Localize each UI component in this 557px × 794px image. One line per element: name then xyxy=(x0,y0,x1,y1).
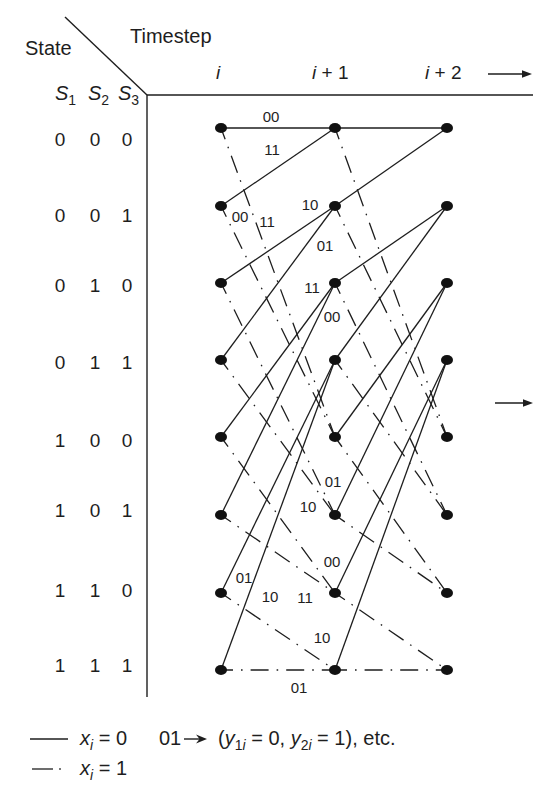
state-bit: 1 xyxy=(122,205,133,226)
legend-solid-label: xi = 0 xyxy=(79,727,127,753)
state-bit-heading-s1: S1 xyxy=(55,82,76,108)
state-bit: 0 xyxy=(122,580,133,601)
state-label-row: 100 xyxy=(55,430,133,451)
state-node xyxy=(441,355,453,365)
branch-input-0 xyxy=(335,283,447,437)
state-bit: 0 xyxy=(55,129,66,150)
branch-output-label: 00 xyxy=(232,208,249,225)
state-bit: 1 xyxy=(122,655,133,676)
state-bit: 1 xyxy=(90,580,101,601)
branch-output-label: 00 xyxy=(324,308,341,325)
right-arrow-icon xyxy=(488,70,532,78)
branch-input-1 xyxy=(335,360,447,515)
branch-input-1 xyxy=(221,360,335,515)
timestep-heading: Timestep xyxy=(130,25,212,47)
state-bit: 1 xyxy=(90,655,101,676)
state-node xyxy=(329,665,341,675)
timestep-label-i-plus-2: i + 2 xyxy=(425,62,461,83)
branch-input-1 xyxy=(335,515,447,593)
branch-input-0 xyxy=(221,360,335,593)
branch-output-label: 10 xyxy=(262,588,279,605)
state-node xyxy=(329,510,341,520)
branch-output-label: 11 xyxy=(297,589,313,606)
state-node xyxy=(215,278,227,288)
right-arrow-icon xyxy=(184,735,207,744)
branch-output-labels: 00111100100101101100001101101001 xyxy=(232,108,342,696)
branch-output-label: 00 xyxy=(263,108,280,125)
state-label-row: 001 xyxy=(55,205,133,226)
state-node xyxy=(215,432,227,442)
state-node xyxy=(329,355,341,365)
state-node xyxy=(441,278,453,288)
state-bit: 0 xyxy=(122,430,133,451)
state-node xyxy=(329,278,341,288)
state-node xyxy=(441,510,453,520)
state-bit: 1 xyxy=(122,352,133,373)
state-label-row: 000 xyxy=(55,129,133,150)
legend-item-solid: xi = 0 xyxy=(30,727,127,753)
state-bit: 0 xyxy=(122,275,133,296)
branch-input-0 xyxy=(221,128,335,206)
state-heading: State xyxy=(25,37,72,59)
branch-output-label: 10 xyxy=(300,498,317,515)
legend-example-mapping: (y1i = 0, y2i = 1), etc. xyxy=(218,727,396,753)
state-bit: 0 xyxy=(55,205,66,226)
state-label-row: 101 xyxy=(55,500,133,521)
state-node xyxy=(441,123,453,133)
state-label-row: 111 xyxy=(55,655,133,676)
state-node xyxy=(441,201,453,211)
branch-output-label: 01 xyxy=(291,679,308,696)
branch-output-label: 01 xyxy=(317,237,334,254)
state-node xyxy=(215,665,227,675)
state-node xyxy=(329,588,341,598)
state-bit: 1 xyxy=(55,500,66,521)
state-label-row: 110 xyxy=(55,580,133,601)
legend-example-code: 01 xyxy=(159,727,181,749)
legend-dash-dot-label: xi = 1 xyxy=(79,757,127,783)
timestep-label-i-plus-1: i + 1 xyxy=(312,62,348,83)
branch-input-0 xyxy=(335,128,447,206)
branch-output-label: 01 xyxy=(236,569,253,586)
state-bit: 0 xyxy=(90,430,101,451)
branch-output-label: 11 xyxy=(304,279,320,296)
trellis-diagram: State Timestep S1 S2 S3 i i + 1 i + 2 00… xyxy=(0,0,557,794)
state-bit: 1 xyxy=(122,500,133,521)
state-bit: 0 xyxy=(90,500,101,521)
legend-example: 01 (y1i = 0, y2i = 1), etc. xyxy=(159,727,396,753)
branch-output-label: 10 xyxy=(302,196,319,213)
branch-input-0 xyxy=(335,206,447,283)
state-node xyxy=(441,588,453,598)
state-label-row: 011 xyxy=(55,352,133,373)
branch-output-label: 11 xyxy=(259,213,275,230)
branch-input-1 xyxy=(335,593,447,670)
branch-input-0 xyxy=(221,283,335,437)
timestep-label-i: i xyxy=(216,62,221,83)
state-bit: 0 xyxy=(90,205,101,226)
state-node xyxy=(215,355,227,365)
state-bit: 1 xyxy=(55,655,66,676)
state-node xyxy=(215,510,227,520)
state-node xyxy=(215,123,227,133)
state-node xyxy=(329,432,341,442)
state-bit-heading-s3: S3 xyxy=(118,82,139,108)
state-bit: 0 xyxy=(55,352,66,373)
right-arrow-icon xyxy=(495,399,533,407)
branch-output-label: 11 xyxy=(264,141,280,158)
state-node xyxy=(441,432,453,442)
state-bit: 0 xyxy=(90,129,101,150)
branch-input-0 xyxy=(335,360,447,593)
state-node xyxy=(329,201,341,211)
state-bit: 1 xyxy=(55,580,66,601)
branch-input-0 xyxy=(335,206,447,360)
state-node xyxy=(329,123,341,133)
state-node xyxy=(215,201,227,211)
state-bit: 1 xyxy=(90,275,101,296)
state-bit: 1 xyxy=(90,352,101,373)
branch-output-label: 10 xyxy=(314,629,331,646)
branch-output-label: 00 xyxy=(324,553,341,570)
branch-output-label: 01 xyxy=(325,473,342,490)
legend: xi = 0 01 (y1i = 0, y2i = 1), etc. xi = … xyxy=(30,727,396,783)
state-bit: 1 xyxy=(55,430,66,451)
state-bit: 0 xyxy=(55,275,66,296)
state-label-row: 010 xyxy=(55,275,133,296)
